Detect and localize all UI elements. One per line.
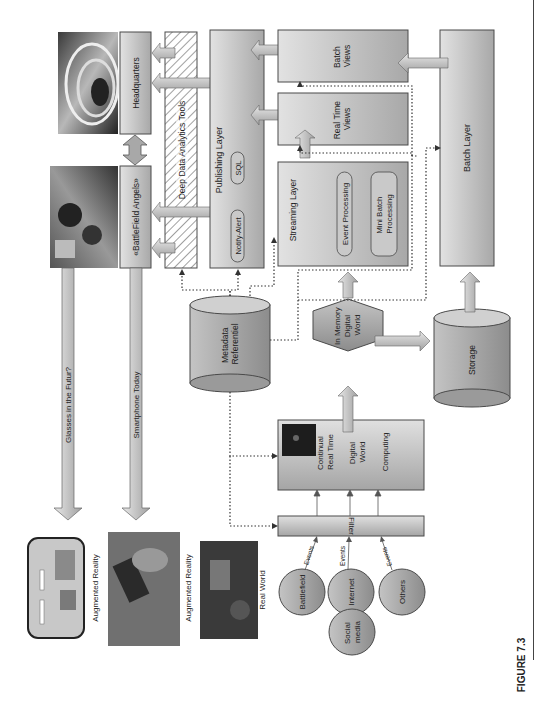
source-others: Others	[379, 569, 425, 615]
svg-text:Internet: Internet	[347, 578, 356, 606]
metadata-cylinder: Metadata Referentiel	[190, 296, 270, 392]
svg-text:Events: Events	[380, 546, 393, 568]
battlefield-angels-label: «BattleField Angels»	[131, 178, 141, 256]
svg-text:Smartphone Today: Smartphone Today	[132, 371, 141, 438]
ar-smartphone-label: Augmented Reality	[184, 554, 193, 622]
glasses-arrow: Glasses in the Futur?	[54, 268, 82, 520]
ar-glasses-image	[28, 538, 84, 638]
headquarters-label: Headquarters	[131, 57, 141, 109]
source-internet: Internet	[328, 569, 374, 615]
svg-text:Event Processing: Event Processing	[341, 183, 350, 245]
source-battlefield: Battlefield	[279, 569, 325, 615]
real-world-label: Real World	[258, 570, 267, 609]
svg-text:Glasses in the Futur?: Glasses in the Futur?	[64, 366, 73, 443]
notify-alert-pill: Notify-Alert	[231, 210, 244, 262]
svg-text:Mini Batch Processing: Mini Batch Processing	[375, 194, 394, 234]
streaming-layer: Streaming Layer Event Processing Mini Ba…	[278, 162, 408, 266]
svg-text:Continual Real Time: Continual Real Time	[316, 433, 335, 470]
filter-to-continual-arrows	[314, 490, 381, 516]
svg-text:Batch Views: Batch Views	[332, 44, 352, 68]
battlefield-angels-box: «BattleField Angels»	[120, 166, 151, 268]
bidirectional-arrow	[123, 135, 147, 165]
source-social-media: Social media	[329, 609, 375, 655]
publishing-layer: Publishing Layer SQL Notify-Alert	[210, 30, 264, 268]
in-memory-hexagon: In Memory Digital World	[313, 299, 383, 351]
mini-batch-pill: Mini Batch Processing	[371, 172, 397, 256]
ar-smartphone-image	[108, 532, 180, 646]
svg-text:Events: Events	[339, 545, 346, 566]
svg-text:Others: Others	[398, 580, 407, 604]
filter-box: Filter	[278, 516, 424, 536]
svg-text:Filter: Filter	[347, 517, 356, 535]
deep-analytics-band: Deep Data Analytics Tools	[165, 32, 197, 268]
page-edge-rule	[533, 0, 534, 660]
batch-views-box: Batch Views	[278, 30, 408, 82]
svg-text:Computing: Computing	[381, 433, 390, 472]
architecture-diagram: Headquarters «BattleField Angels» Deep D…	[0, 0, 538, 706]
battlefield-angels-photo	[50, 166, 118, 268]
svg-text:Storage: Storage	[467, 345, 477, 375]
storage-cylinder: Storage	[434, 309, 510, 407]
svg-text:Battlefield: Battlefield	[298, 574, 307, 609]
publishing-layer-title: Publishing Layer	[214, 127, 224, 194]
headquarters-photo	[58, 32, 118, 134]
deep-analytics-label: Deep Data Analytics Tools	[177, 101, 187, 200]
events-arrows: Events Events Events	[302, 536, 393, 570]
svg-text:Social media: Social media	[343, 620, 362, 644]
streaming-layer-title: Streaming Layer	[288, 179, 298, 242]
inmemory-to-streaming-arrow	[338, 272, 358, 298]
ar-glasses-label: Augmented Reality	[91, 554, 100, 622]
sql-pill: SQL	[231, 152, 244, 184]
smartphone-arrow: Smartphone Today	[122, 268, 150, 520]
svg-text:Events: Events	[302, 544, 315, 566]
svg-text:Notify-Alert: Notify-Alert	[234, 217, 243, 255]
storage-to-batchlayer-arrow	[460, 272, 480, 312]
event-processing-pill: Event Processing	[337, 172, 352, 256]
headquarters-box: Headquarters	[120, 32, 151, 134]
real-world-image	[200, 541, 258, 639]
figure-caption: FIGURE 7.3	[516, 637, 527, 692]
batch-layer-label: Batch Layer	[462, 124, 472, 172]
svg-text:Metadata Referentiel: Metadata Referentiel	[220, 323, 240, 364]
svg-text:Digital World: Digital World	[348, 440, 367, 464]
svg-text:SQL: SQL	[234, 160, 243, 175]
